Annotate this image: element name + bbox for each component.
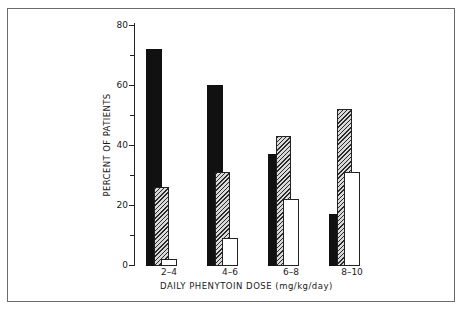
y-major-tick	[129, 145, 135, 146]
x-category-label: 2–4	[149, 267, 189, 277]
y-major-tick	[129, 265, 135, 266]
y-tick-label: 20	[104, 200, 128, 210]
bar-white-8-10	[344, 172, 360, 266]
y-minor-tick	[130, 175, 135, 176]
x-category-label: 8–10	[332, 267, 372, 277]
bar-white-6-8	[283, 199, 299, 266]
y-major-tick	[129, 205, 135, 206]
y-minor-tick	[130, 235, 135, 236]
y-tick-label: 0	[104, 260, 128, 270]
x-axis-label: DAILY PHENYTOIN DOSE (mg/kg/day)	[160, 281, 333, 291]
y-minor-tick	[130, 115, 135, 116]
bar-white-4-6	[222, 238, 238, 266]
y-major-tick	[129, 85, 135, 86]
y-tick-label: 60	[104, 80, 128, 90]
x-category-label: 6–8	[271, 267, 311, 277]
y-major-tick	[129, 25, 135, 26]
y-minor-tick	[130, 55, 135, 56]
bar-hatched-2-4	[154, 187, 169, 266]
y-axis-label: PERCENT OF PATIENTS	[102, 93, 112, 196]
y-tick-label: 80	[104, 20, 128, 30]
bar-white-2-4	[161, 259, 177, 266]
x-category-label: 4–6	[210, 267, 250, 277]
